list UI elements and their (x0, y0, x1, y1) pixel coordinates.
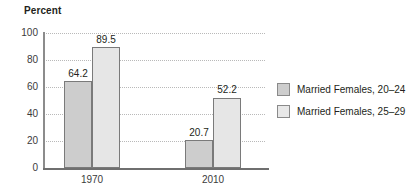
x-tick-2010: 2010 (185, 174, 241, 185)
data-label-1970-25-29: 89.5 (86, 35, 126, 45)
x-tick-1970: 1970 (64, 174, 120, 185)
data-label-2010-20-24: 20.7 (179, 128, 219, 138)
y-tick-60: 60 (4, 82, 38, 92)
y-tick-40: 40 (4, 109, 38, 119)
bar-chart-figure: Percent 100 80 60 40 20 0 64.2 89.5 20.7… (0, 0, 416, 195)
y-tick-80: 80 (4, 55, 38, 65)
plot-area: 64.2 89.5 20.7 52.2 (44, 33, 265, 168)
bar-1970-married-females-25-29[interactable] (92, 47, 120, 168)
data-label-1970-20-24: 64.2 (58, 69, 98, 79)
bar-2010-married-females-20-24[interactable] (185, 140, 213, 168)
gridline-100 (44, 33, 265, 34)
y-tick-0: 0 (4, 163, 38, 173)
y-axis-tick-labels: 100 80 60 40 20 0 (0, 0, 38, 195)
legend-swatch-icon-series-1 (277, 105, 290, 118)
y-tick-100: 100 (4, 28, 38, 38)
gridline-80 (44, 60, 265, 61)
legend-item-married-females-20-24[interactable]: Married Females, 20–24 (277, 78, 416, 100)
x-axis-line (43, 168, 269, 170)
legend-swatch-icon-series-0 (277, 83, 290, 96)
y-tick-20: 20 (4, 136, 38, 146)
legend-item-married-females-25-29[interactable]: Married Females, 25–29 (277, 100, 416, 122)
chart-legend: Married Females, 20–24 Married Females, … (277, 78, 416, 122)
legend-label-series-1: Married Females, 25–29 (297, 106, 405, 117)
data-label-2010-25-29: 52.2 (207, 85, 247, 95)
legend-label-series-0: Married Females, 20–24 (297, 84, 405, 95)
y-axis-line (43, 32, 45, 169)
bar-1970-married-females-20-24[interactable] (64, 81, 92, 168)
